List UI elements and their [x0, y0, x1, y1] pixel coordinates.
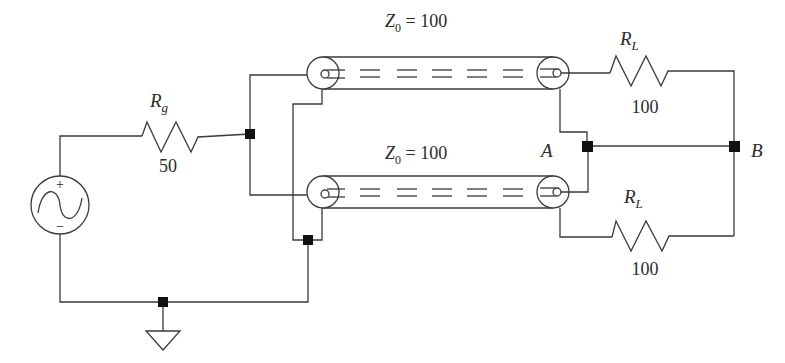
coax-top-right-center: [553, 69, 561, 77]
coax-line-top: [307, 57, 569, 89]
resistor-rl-bottom: [612, 221, 734, 251]
wire-to-bottom-center: [250, 134, 316, 195]
wire-source-to-rg: [60, 136, 142, 176]
wire-source-return: [60, 234, 308, 302]
dielectric-dashes: [360, 189, 523, 196]
z0-top-label: Z0 = 100: [385, 11, 447, 35]
node-ground: [158, 297, 168, 307]
rl-top-value: 100: [632, 97, 659, 117]
coax-bottom-right-center: [553, 188, 561, 196]
node-b: [729, 141, 740, 152]
ac-source: + −: [31, 176, 89, 234]
node-b-label: B: [751, 140, 763, 161]
coax-line-bottom: [307, 176, 569, 208]
rl-bottom-value: 100: [632, 259, 659, 279]
sine-wave-icon: [38, 192, 82, 219]
minus-sign: −: [56, 219, 64, 234]
node-a: [582, 141, 593, 152]
rl-top-label: RL: [619, 28, 639, 53]
dielectric-dashes: [360, 70, 523, 77]
rl-bottom-label: RL: [623, 186, 643, 211]
rg-label: Rg: [149, 90, 169, 115]
wire-top-shield-right: [560, 89, 587, 146]
wire-bottom-shield-right: [560, 208, 612, 237]
ground-icon: [146, 331, 180, 350]
z0-bottom-label: Z0 = 100: [385, 143, 447, 167]
node-shield-left: [303, 235, 313, 245]
wire-top-shield-left: [293, 89, 322, 240]
circuit-diagram: + − Rg 50 Z0 = 100: [0, 0, 785, 363]
coax-top-left-center: [321, 70, 329, 78]
plus-sign: +: [56, 177, 64, 192]
rg-value: 50: [159, 156, 177, 176]
coax-bottom-left-center: [321, 190, 329, 198]
node-a-label: A: [539, 140, 553, 161]
resistor-rg: [142, 122, 250, 152]
node-rg-junction: [245, 129, 255, 139]
